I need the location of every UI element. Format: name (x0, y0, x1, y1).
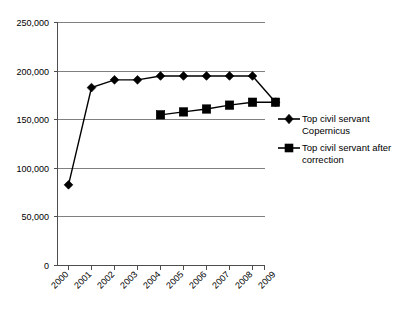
x-tick-label: 2003 (118, 269, 139, 290)
legend-entry-after-correction[interactable]: Top civil servant after correction (278, 142, 391, 165)
x-tick-label: 2006 (187, 269, 208, 290)
x-tick-label: 2000 (49, 269, 70, 290)
series-line (161, 102, 276, 115)
x-tick-label: 2002 (95, 269, 116, 290)
y-tick-label: 100,000 (16, 164, 49, 174)
x-tick-label: 2005 (164, 269, 185, 290)
y-axis-labels: 250,000 200,000 150,000 100,000 50,000 0 (16, 18, 49, 271)
data-point-square (179, 108, 187, 116)
legend-label-line2: Copernicus (302, 125, 350, 136)
series-copernicus (64, 72, 280, 190)
axes (58, 23, 265, 266)
x-tickmarks (69, 266, 265, 270)
x-tick-label: 2007 (210, 269, 231, 290)
y-tick-label: 0 (44, 261, 49, 271)
chart-legend: Top civil servant Copernicus Top civil s… (278, 113, 391, 165)
data-point-diamond (64, 180, 73, 189)
data-point-square (156, 111, 164, 119)
diamond-marker-icon (285, 114, 293, 124)
data-point-square (225, 101, 233, 109)
legend-entry-copernicus[interactable]: Top civil servant Copernicus (278, 113, 370, 136)
data-point-square (202, 105, 210, 113)
gridlines (58, 23, 265, 217)
x-tick-label: 2004 (141, 269, 162, 290)
series-after-correction (156, 98, 279, 119)
data-point-diamond (179, 72, 188, 81)
y-tick-label: 200,000 (16, 67, 49, 77)
line-chart: 250,000 200,000 150,000 100,000 50,000 0… (0, 0, 407, 314)
x-axis-labels: 2000 2001 2002 2003 2004 2005 2006 2007 … (49, 269, 277, 290)
data-point-diamond (110, 75, 119, 84)
y-tick-label: 150,000 (16, 115, 49, 125)
legend-label-line2: correction (302, 154, 344, 165)
legend-label-line1: Top civil servant (302, 113, 370, 124)
x-tick-label: 2001 (72, 269, 93, 290)
x-tick-label: 2009 (256, 269, 277, 290)
y-tick-label: 250,000 (16, 18, 49, 28)
data-point-diamond (202, 72, 211, 81)
y-tickmarks (54, 23, 58, 266)
square-marker-icon (285, 144, 293, 152)
data-point-diamond (225, 72, 234, 81)
data-point-diamond (156, 72, 165, 81)
x-tick-label: 2008 (233, 269, 254, 290)
data-point-diamond (133, 75, 142, 84)
series-layer (64, 72, 280, 190)
data-point-square (248, 98, 256, 106)
chart-container: 250,000 200,000 150,000 100,000 50,000 0… (0, 0, 407, 314)
legend-label-line1: Top civil servant after (302, 142, 391, 153)
y-tick-label: 50,000 (21, 212, 49, 222)
data-point-diamond (87, 83, 96, 92)
data-point-square (271, 98, 279, 106)
